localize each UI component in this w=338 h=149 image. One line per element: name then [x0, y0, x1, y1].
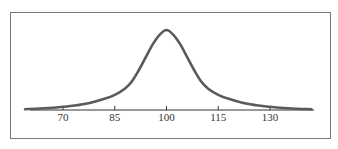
x-tick-label-85: 85 — [109, 111, 121, 123]
distribution-curve — [25, 30, 311, 109]
chart-svg: 7085100115130 — [0, 0, 338, 149]
x-tick-label-115: 115 — [210, 111, 227, 123]
x-tick-label-130: 130 — [262, 111, 279, 123]
x-tick-label-100: 100 — [158, 111, 175, 123]
x-tick-label-70: 70 — [58, 111, 70, 123]
